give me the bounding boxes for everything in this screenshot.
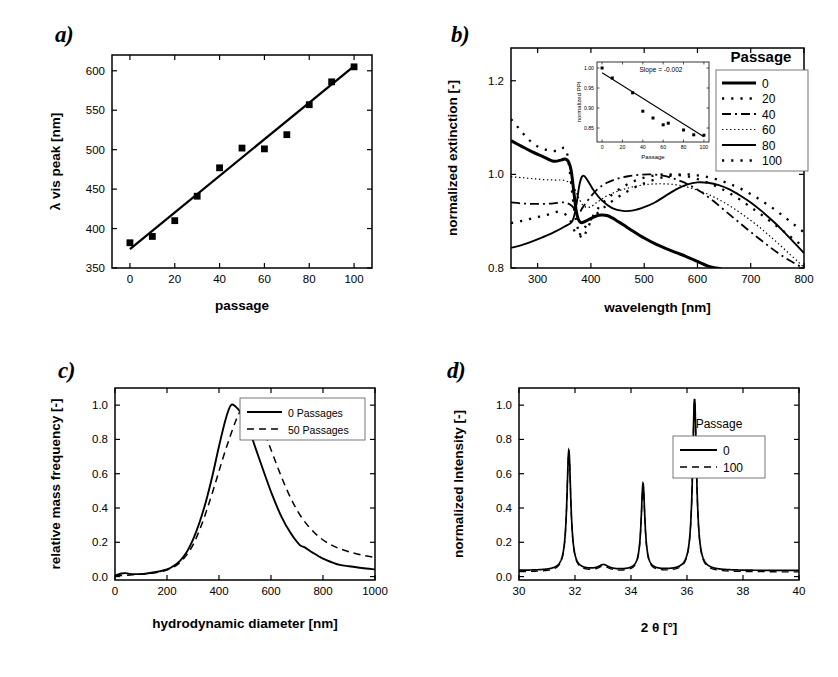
- svg-text:wavelength [nm]: wavelength [nm]: [603, 300, 711, 315]
- panel-b-inset-point: [692, 133, 695, 136]
- svg-text:800: 800: [313, 585, 332, 597]
- svg-text:80: 80: [681, 144, 687, 150]
- svg-text:normalized extinction [-]: normalized extinction [-]: [445, 80, 460, 236]
- panel-b-inset-point: [631, 91, 634, 94]
- panel-b-legend-label: 0: [762, 77, 769, 91]
- panel-d-legend-label: 100: [723, 461, 743, 475]
- panel-d-xrd-pattern: d) 3032343638400.00.20.40.60.81.02 θ [°]…: [419, 340, 838, 677]
- svg-text:500: 500: [635, 273, 654, 285]
- svg-text:40: 40: [640, 144, 646, 150]
- svg-text:0.90: 0.90: [584, 105, 594, 111]
- panel-b-inset-point: [601, 67, 604, 70]
- panel-a-data-point: [261, 145, 268, 152]
- svg-text:1.00: 1.00: [584, 65, 594, 71]
- panel-d-curve-passage-0: [519, 399, 799, 570]
- svg-text:0.0: 0.0: [496, 571, 512, 583]
- svg-text:λ vis peak [nm]: λ vis peak [nm]: [48, 113, 63, 211]
- panel-b-inset-slope-annotation: Slope = -0.002: [639, 66, 682, 74]
- panel-a-label: a): [55, 22, 73, 48]
- svg-text:300: 300: [528, 273, 547, 285]
- svg-text:1.0: 1.0: [488, 168, 504, 180]
- svg-text:1.0: 1.0: [496, 399, 512, 411]
- panel-a-lambda-vs-passage: a) 020406080100350400450500550600passage…: [0, 0, 419, 340]
- svg-text:40: 40: [793, 585, 806, 597]
- svg-text:100: 100: [344, 273, 363, 285]
- svg-text:normalized Intensity [-]: normalized Intensity [-]: [451, 410, 466, 558]
- svg-text:0.6: 0.6: [496, 468, 512, 480]
- svg-text:350: 350: [86, 262, 105, 274]
- svg-text:600: 600: [261, 585, 280, 597]
- svg-text:Passage: Passage: [696, 417, 743, 431]
- svg-text:550: 550: [86, 104, 105, 116]
- svg-text:20: 20: [168, 273, 181, 285]
- svg-text:60: 60: [258, 273, 271, 285]
- panel-b-inset-point: [702, 134, 705, 137]
- svg-text:450: 450: [86, 183, 105, 195]
- svg-text:600: 600: [688, 273, 707, 285]
- svg-text:34: 34: [625, 585, 638, 597]
- svg-text:passage: passage: [215, 298, 270, 313]
- svg-text:0.8: 0.8: [488, 262, 504, 274]
- svg-text:100: 100: [700, 144, 709, 150]
- svg-text:relative mass frequency [-]: relative mass frequency [-]: [48, 398, 63, 569]
- panel-a-data-point: [239, 145, 246, 152]
- panel-a-data-point: [127, 239, 134, 246]
- panel-b-curve-passage-80: [511, 176, 804, 253]
- svg-text:0: 0: [127, 273, 133, 285]
- panel-b-curve-passage-40: [511, 174, 804, 268]
- panel-a-data-point: [194, 193, 201, 200]
- panel-c-legend-label: 50 Passages: [288, 424, 349, 436]
- panel-d-label: d): [447, 358, 465, 384]
- panel-a-data-point: [328, 78, 335, 85]
- svg-text:32: 32: [569, 585, 582, 597]
- svg-text:500: 500: [86, 144, 105, 156]
- svg-text:0: 0: [601, 144, 604, 150]
- panel-a-data-point: [171, 217, 178, 224]
- panel-a-plot: 020406080100350400450500550600passageλ v…: [0, 0, 419, 340]
- panel-b-curve-passage-100: [511, 174, 804, 235]
- svg-text:200: 200: [157, 585, 176, 597]
- figure-panel-grid: a) 020406080100350400450500550600passage…: [0, 0, 838, 677]
- panel-b-legend-label: 60: [762, 123, 776, 137]
- panel-c-legend-label: 0 Passages: [288, 407, 343, 419]
- panel-b-legend-label: 40: [762, 108, 776, 122]
- svg-text:0.6: 0.6: [92, 468, 108, 480]
- svg-text:Passage: Passage: [641, 154, 665, 160]
- svg-text:800: 800: [794, 273, 813, 285]
- panel-a-data-point: [283, 131, 290, 138]
- svg-text:0: 0: [112, 585, 118, 597]
- panel-d-curve-passage-100: [519, 400, 799, 571]
- panel-c-mass-frequency: c) 020040060080010000.00.20.40.60.81.0hy…: [0, 340, 419, 677]
- svg-text:0.2: 0.2: [496, 536, 512, 548]
- panel-b-inset-point: [682, 129, 685, 132]
- panel-b-inset-point: [667, 122, 670, 125]
- svg-text:20: 20: [620, 144, 626, 150]
- svg-text:400: 400: [581, 273, 600, 285]
- panel-a-data-point: [149, 233, 156, 240]
- svg-text:700: 700: [741, 273, 760, 285]
- panel-b-legend-label: 80: [762, 139, 776, 153]
- svg-text:1000: 1000: [362, 585, 388, 597]
- panel-a-fit-line: [130, 66, 354, 249]
- svg-text:0.8: 0.8: [496, 433, 512, 445]
- panel-b-inset-point: [662, 123, 665, 126]
- panel-d-plot: 3032343638400.00.20.40.60.81.02 θ [°]nor…: [419, 340, 838, 677]
- svg-text:normalized PPI: normalized PPI: [576, 81, 582, 122]
- svg-text:Passage: Passage: [731, 48, 792, 65]
- svg-text:hydrodynamic diameter [nm]: hydrodynamic diameter [nm]: [152, 616, 337, 631]
- panel-b-plot: 3004005006007008000.81.01.2wavelength [n…: [419, 0, 838, 340]
- svg-text:600: 600: [86, 65, 105, 77]
- svg-text:400: 400: [209, 585, 228, 597]
- svg-text:0.4: 0.4: [92, 502, 109, 514]
- svg-text:0.8: 0.8: [92, 433, 108, 445]
- panel-a-data-point: [351, 63, 358, 70]
- panel-c-label: c): [58, 358, 75, 384]
- svg-text:36: 36: [681, 585, 694, 597]
- svg-text:0.85: 0.85: [584, 125, 594, 131]
- panel-b-inset-point: [641, 110, 644, 113]
- panel-d-legend: [673, 436, 765, 478]
- panel-b-curve-passage-0: [511, 141, 721, 269]
- svg-text:40: 40: [213, 273, 226, 285]
- svg-text:1.0: 1.0: [92, 399, 108, 411]
- svg-text:0.0: 0.0: [92, 571, 108, 583]
